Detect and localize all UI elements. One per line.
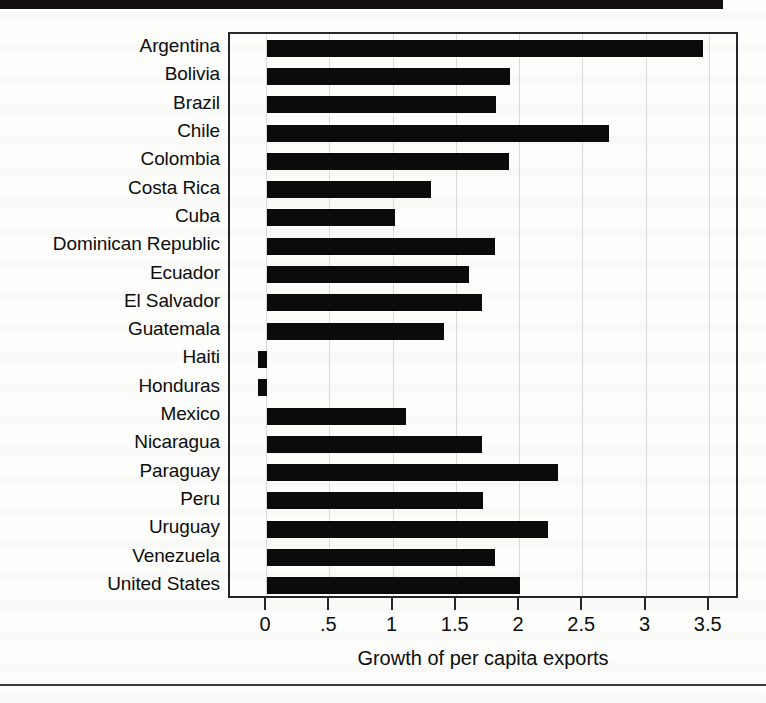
category-label-ecuador: Ecuador xyxy=(0,263,220,282)
tick-label-0: 0 xyxy=(259,612,270,636)
bar-bolivia xyxy=(267,68,510,85)
tick-0 xyxy=(264,598,266,610)
tick-1.5 xyxy=(454,598,456,610)
category-axis-labels: ArgentinaBoliviaBrazilChileColombiaCosta… xyxy=(0,32,220,598)
tick-label-3: 3 xyxy=(639,612,650,636)
category-label-bolivia: Bolivia xyxy=(0,64,220,83)
category-label-nicaragua: Nicaragua xyxy=(0,432,220,451)
tick-label-2: 2 xyxy=(512,612,523,636)
category-label-peru: Peru xyxy=(0,489,220,508)
bar-colombia xyxy=(267,153,509,170)
tick-.5 xyxy=(327,598,329,610)
plot-area xyxy=(228,32,738,598)
scan-edge-artifact-top xyxy=(0,0,723,9)
bar-series xyxy=(230,34,736,596)
category-label-paraguay: Paraguay xyxy=(0,461,220,480)
category-label-costa-rica: Costa Rica xyxy=(0,178,220,197)
bar-ecuador xyxy=(267,266,469,283)
bar-el-salvador xyxy=(267,294,482,311)
bar-honduras xyxy=(258,379,267,396)
tick-1 xyxy=(391,598,393,610)
tick-2 xyxy=(517,598,519,610)
x-axis-tick-labels: 0.511.522.533.5 xyxy=(228,612,738,638)
page-footer-rule xyxy=(0,684,766,686)
bar-cuba xyxy=(267,209,395,226)
category-label-uruguay: Uruguay xyxy=(0,517,220,536)
bar-united-states xyxy=(267,577,520,594)
category-label-cuba: Cuba xyxy=(0,206,220,225)
tick-label-.5: .5 xyxy=(320,612,337,636)
bar-argentina xyxy=(267,40,703,57)
tick-label-3.5: 3.5 xyxy=(694,612,722,636)
x-axis-ticks xyxy=(228,598,738,610)
category-label-colombia: Colombia xyxy=(0,149,220,168)
tick-2.5 xyxy=(580,598,582,610)
bar-mexico xyxy=(267,408,406,425)
bar-brazil xyxy=(267,96,496,113)
bar-dominican-republic xyxy=(267,238,495,255)
bar-chile xyxy=(267,125,609,142)
category-label-mexico: Mexico xyxy=(0,404,220,423)
x-axis-title: Growth of per capita exports xyxy=(228,646,738,670)
category-label-el-salvador: El Salvador xyxy=(0,291,220,310)
bar-uruguay xyxy=(267,521,548,538)
scanned-page: ArgentinaBoliviaBrazilChileColombiaCosta… xyxy=(0,0,766,703)
bar-peru xyxy=(267,492,483,509)
tick-3.5 xyxy=(707,598,709,610)
category-label-argentina: Argentina xyxy=(0,36,220,55)
bar-haiti xyxy=(258,351,267,368)
category-label-venezuela: Venezuela xyxy=(0,546,220,565)
tick-label-2.5: 2.5 xyxy=(567,612,595,636)
tick-3 xyxy=(644,598,646,610)
category-label-honduras: Honduras xyxy=(0,376,220,395)
category-label-chile: Chile xyxy=(0,121,220,140)
category-label-brazil: Brazil xyxy=(0,93,220,112)
category-label-united-states: United States xyxy=(0,574,220,593)
bar-chart-figure: ArgentinaBoliviaBrazilChileColombiaCosta… xyxy=(0,0,766,703)
tick-label-1: 1 xyxy=(386,612,397,636)
bar-nicaragua xyxy=(267,436,482,453)
bar-guatemala xyxy=(267,323,444,340)
category-label-dominican-republic: Dominican Republic xyxy=(0,234,220,253)
bar-costa-rica xyxy=(267,181,431,198)
category-label-guatemala: Guatemala xyxy=(0,319,220,338)
category-label-haiti: Haiti xyxy=(0,347,220,366)
bar-paraguay xyxy=(267,464,558,481)
tick-label-1.5: 1.5 xyxy=(441,612,469,636)
bar-venezuela xyxy=(267,549,495,566)
